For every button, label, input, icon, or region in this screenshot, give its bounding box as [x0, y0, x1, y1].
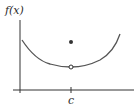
open-circle-hole — [69, 65, 73, 69]
function-curve — [22, 34, 120, 67]
filled-point-fc — [69, 40, 73, 44]
y-axis-label: f(x) — [4, 4, 24, 17]
x-tick-label-c: c — [68, 94, 74, 107]
function-graph: f(x) c — [0, 0, 137, 107]
